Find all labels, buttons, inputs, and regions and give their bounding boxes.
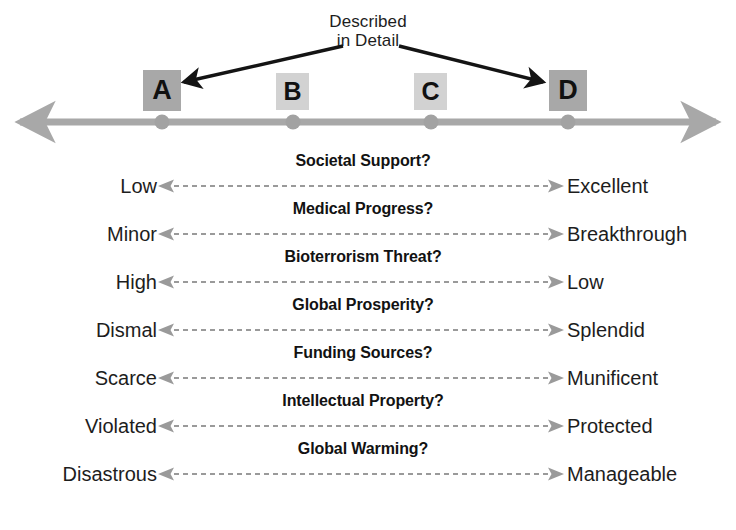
dimension-left-label: High: [116, 270, 157, 294]
dimension-range-arrow: [158, 224, 564, 244]
dimension-title: Societal Support?: [160, 152, 566, 170]
axis-dot-c: [424, 115, 439, 130]
scenario-box-c[interactable]: C: [414, 73, 447, 110]
dimension-right-label: Breakthrough: [567, 222, 687, 246]
scenario-label-a: A: [152, 75, 172, 106]
dimension-title: Medical Progress?: [160, 200, 566, 218]
dimension-left-label: Minor: [107, 222, 157, 246]
axis-dot-d: [561, 115, 576, 130]
scenario-label-b: B: [283, 77, 301, 106]
dimension-right-label: Low: [567, 270, 604, 294]
dimension-row: Global Prosperity? Dismal Splendid: [0, 296, 736, 344]
dimension-range-arrow: [158, 176, 564, 196]
dimension-range-arrow: [158, 272, 564, 292]
dimension-title: Intellectual Property?: [160, 392, 566, 410]
axis-dot-a: [155, 115, 170, 130]
dimension-row: Global Warming? Disastrous Manageable: [0, 440, 736, 488]
callout-label: Described in Detail: [0, 12, 736, 50]
axis-line-svg: [0, 60, 736, 145]
dimension-range-arrow: [158, 368, 564, 388]
dimension-range-arrow: [158, 464, 564, 484]
callout-line-2: in Detail: [0, 31, 736, 50]
axis-dot-b: [286, 115, 301, 130]
callout-line-1: Described: [0, 12, 736, 31]
dimension-row: Bioterrorism Threat? High Low: [0, 248, 736, 296]
scenario-label-c: C: [421, 77, 439, 106]
dimension-left-label: Low: [120, 174, 157, 198]
dimension-row: Funding Sources? Scarce Munificent: [0, 344, 736, 392]
scenario-axis: A B C D: [0, 60, 736, 145]
dimension-row: Medical Progress? Minor Breakthrough: [0, 200, 736, 248]
dimension-title: Global Warming?: [160, 440, 566, 458]
dimension-left-label: Scarce: [95, 366, 157, 390]
dimension-right-label: Munificent: [567, 366, 658, 390]
dimension-right-label: Manageable: [567, 462, 677, 486]
dimension-row: Societal Support? Low Excellent: [0, 152, 736, 200]
dimension-range-arrow: [158, 416, 564, 436]
dimension-left-label: Disastrous: [63, 462, 157, 486]
dimension-left-label: Dismal: [96, 318, 157, 342]
scenario-box-a[interactable]: A: [143, 70, 181, 111]
dimension-left-label: Violated: [85, 414, 157, 438]
dimension-row: Intellectual Property? Violated Protecte…: [0, 392, 736, 440]
scenario-label-d: D: [558, 75, 578, 106]
dimension-title: Global Prosperity?: [160, 296, 566, 314]
dimension-title: Bioterrorism Threat?: [160, 248, 566, 266]
scenario-box-d[interactable]: D: [549, 70, 587, 111]
dimension-right-label: Splendid: [567, 318, 645, 342]
dimension-list: Societal Support? Low Excellent Medical …: [0, 152, 736, 488]
scenario-box-b[interactable]: B: [276, 73, 309, 110]
dimension-title: Funding Sources?: [160, 344, 566, 362]
dimension-range-arrow: [158, 320, 564, 340]
dimension-right-label: Excellent: [567, 174, 648, 198]
dimension-right-label: Protected: [567, 414, 653, 438]
